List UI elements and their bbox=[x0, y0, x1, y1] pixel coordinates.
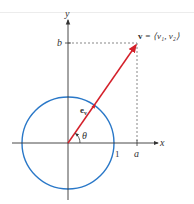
vector-v-arrow bbox=[68, 45, 136, 143]
unit-vector-label-sub: v bbox=[84, 110, 87, 116]
vector-v-label: v = ⟨v₁, v₂⟩ bbox=[138, 31, 180, 41]
vector-unit-circle-diagram: y x b a 1 θ ev v = ⟨v₁, v₂⟩ bbox=[0, 0, 194, 204]
tick-label-b: b bbox=[57, 37, 62, 48]
x-axis-label: x bbox=[159, 137, 165, 148]
y-axis-label: y bbox=[64, 8, 70, 19]
tick-label-a: a bbox=[134, 148, 139, 159]
unit-vector-label: ev bbox=[80, 105, 87, 116]
tick-label-one: 1 bbox=[115, 149, 120, 159]
angle-arc bbox=[76, 134, 81, 143]
angle-theta-label: θ bbox=[82, 130, 87, 141]
vector-v-label-rest: = ⟨v₁, v₂⟩ bbox=[143, 31, 180, 41]
